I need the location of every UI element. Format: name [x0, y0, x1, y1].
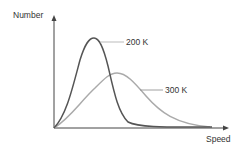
y-axis-label: Number	[13, 11, 43, 20]
curve-300k	[54, 73, 210, 128]
curve-200k	[54, 38, 212, 128]
annotation-200k: 200 K	[126, 38, 148, 47]
x-axis-arrow-icon	[223, 126, 229, 131]
chart-canvas	[0, 0, 240, 152]
annotation-300k: 300 K	[165, 86, 187, 95]
x-axis-label: Speed	[206, 135, 231, 144]
y-axis-arrow-icon	[52, 15, 57, 21]
